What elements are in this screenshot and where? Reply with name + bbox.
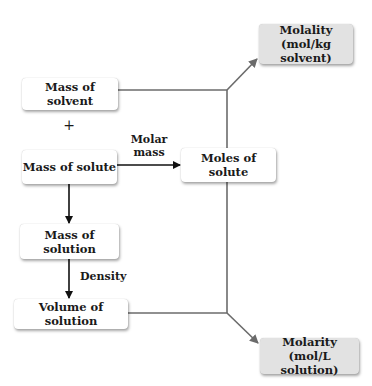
volume-of-solution-node: Volume of solution bbox=[14, 299, 128, 329]
molarity-node: Molarity (mol/L solution) bbox=[260, 338, 359, 374]
molality-node: Molality (mol/kg solvent) bbox=[259, 24, 353, 64]
plus-sign: + bbox=[62, 119, 76, 132]
mass-of-solution-label: Mass of solution bbox=[20, 228, 119, 256]
molar-mass-line2: mass bbox=[126, 146, 172, 159]
volume-of-solution-label: Volume of solution bbox=[14, 300, 128, 328]
molarity-title: Molarity bbox=[282, 335, 337, 349]
molality-units: (mol/kg solvent) bbox=[259, 37, 353, 65]
molality-title: Molality bbox=[280, 23, 333, 37]
moles-of-solute-label: Moles of solute bbox=[181, 151, 276, 179]
arrow-to-molarity bbox=[227, 313, 258, 343]
mass-of-solution-node: Mass of solution bbox=[20, 224, 119, 259]
mass-of-solvent-label: Mass of solvent bbox=[22, 80, 118, 108]
molarity-units: (mol/L solution) bbox=[260, 349, 359, 377]
density-label: Density bbox=[80, 270, 130, 283]
moles-of-solute-node: Moles of solute bbox=[181, 148, 276, 182]
arrow-to-molality bbox=[227, 59, 257, 90]
mass-of-solute-node: Mass of solute bbox=[22, 150, 117, 184]
mass-of-solvent-node: Mass of solvent bbox=[22, 78, 118, 110]
molar-mass-label: Molar mass bbox=[126, 133, 172, 159]
mass-of-solute-label: Mass of solute bbox=[23, 160, 116, 174]
molar-mass-line1: Molar bbox=[126, 133, 172, 146]
